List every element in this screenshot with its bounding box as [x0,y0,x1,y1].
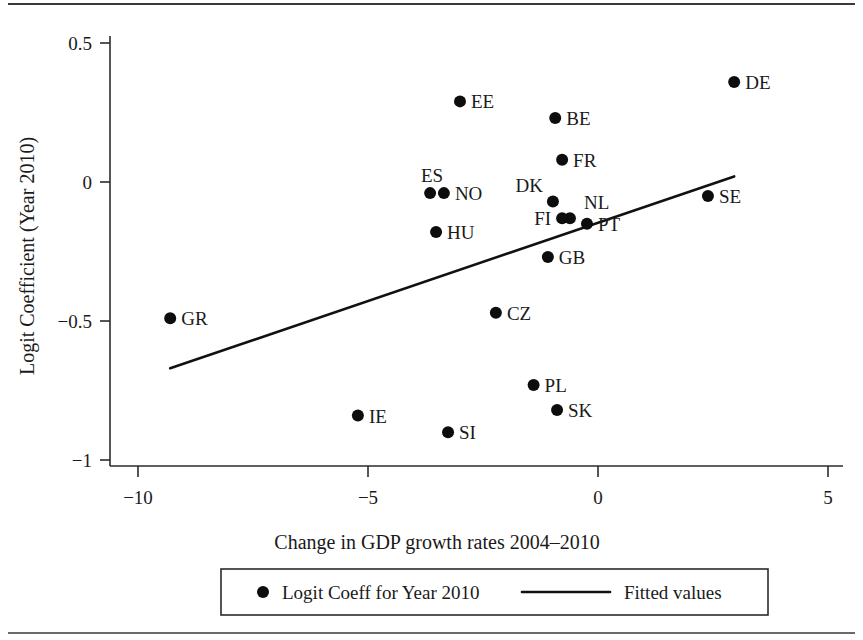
data-point-label-gr: GR [181,308,208,329]
x-axis-title: Change in GDP growth rates 2004–2010 [274,531,599,554]
y-tick-label: −0.5 [58,311,92,332]
fitted-values-line-group [170,176,734,368]
data-point-es [424,187,436,199]
data-point-no [438,187,450,199]
data-point-si [442,426,454,438]
data-point-fr [556,154,568,166]
y-tick-labels: 0.50−0.5−1 [58,33,92,471]
legend: Logit Coeff for Year 2010 Fitted values [221,569,768,615]
data-point-be [549,112,561,124]
data-point-cz [490,307,502,319]
legend-label-fitted: Fitted values [624,582,722,603]
data-point-ee [454,95,466,107]
data-point-pl [528,379,540,391]
data-point-sk [551,404,563,416]
data-point-ie [352,410,364,422]
figure-container: 0.50−0.5−1 −10−505 DEEEBEFRESNOSEDKNLFIP… [0,0,863,640]
scatter-plot: 0.50−0.5−1 −10−505 DEEEBEFRESNOSEDKNLFIP… [0,0,863,640]
data-point-label-pl: PL [545,375,567,396]
data-point-label-no: NO [455,183,482,204]
y-tick-label: 0 [83,172,93,193]
data-point-label-be: BE [566,108,590,129]
data-point-label-se: SE [719,186,741,207]
data-point-label-si: SI [459,422,476,443]
data-point-label-sk: SK [568,400,593,421]
data-point-label-es: ES [421,165,443,186]
y-tick-label: −1 [72,450,92,471]
data-point-label-ie: IE [369,406,387,427]
data-point-label-pt: PT [598,214,621,235]
data-point-label-dk: DK [515,175,543,196]
fitted-values-line [170,176,734,368]
data-point-gr [164,312,176,324]
y-tickmarks [100,43,110,460]
data-point-label-ee: EE [471,91,494,112]
y-axis-title: Logit Coefficient (Year 2010) [16,137,39,375]
data-point-se [702,190,714,202]
data-point-label-de: DE [745,72,770,93]
data-point-label-cz: CZ [507,303,531,324]
legend-label-scatter: Logit Coeff for Year 2010 [282,582,480,603]
data-point-label-hu: HU [447,222,475,243]
data-point-pt [581,218,593,230]
data-point-gb [542,251,554,263]
y-tick-label: 0.5 [68,33,92,54]
data-point-dk [547,195,559,207]
data-point-label-fr: FR [573,150,597,171]
x-tick-label: −5 [358,487,378,508]
data-point-fi [556,212,568,224]
data-point-de [728,76,740,88]
x-tick-label: 0 [593,487,603,508]
data-points-group: DEEEBEFRESNOSEDKNLFIPTHUGBCZGRPLSKIESI [164,72,770,443]
data-point-label-nl: NL [584,192,609,213]
x-tickmarks [138,466,828,477]
data-point-hu [430,226,442,238]
data-point-label-gb: GB [559,247,585,268]
legend-marker-scatter-icon [257,586,269,598]
x-tick-label: 5 [823,487,833,508]
x-tick-labels: −10−505 [123,487,833,508]
data-point-label-fi: FI [534,208,551,229]
x-tick-label: −10 [123,487,153,508]
